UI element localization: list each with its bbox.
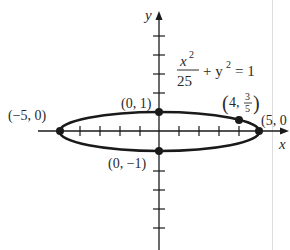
label-top-covertex: (0, 1) — [121, 96, 152, 112]
point-bottom-covertex — [155, 147, 163, 155]
equation-numerator-exponent: 2 — [189, 49, 194, 60]
equation-denominator: 25 — [177, 73, 192, 89]
point-left-vertex — [56, 127, 64, 135]
right-paren: ) — [253, 92, 260, 115]
x-axis-label: x — [278, 136, 286, 152]
x-axis — [38, 126, 289, 136]
label-right-vertex: (5, 0 — [261, 113, 287, 129]
label-point-4-three-fifths: ( 4, 3 5 ) — [222, 91, 260, 115]
label-prefix: 4, — [229, 95, 240, 110]
label-numerator: 3 — [245, 91, 250, 102]
point-4-three-fifths — [235, 116, 243, 124]
point-top-covertex — [155, 108, 163, 116]
ellipse-diagram: y x x 2 25 + y 2 = 1 (−5, 0) (5, 0 (0, 1… — [0, 0, 290, 250]
left-paren: ( — [222, 92, 229, 115]
equation-equals-one: = 1 — [235, 63, 255, 79]
equation-y-term: + y — [203, 63, 223, 79]
y-axis-arrow-icon — [156, 11, 163, 20]
equation-numerator: x — [179, 53, 187, 69]
label-left-vertex: (−5, 0) — [8, 108, 47, 124]
point-right-vertex — [255, 127, 263, 135]
label-bottom-covertex: (0, −1) — [108, 156, 147, 172]
y-axis-label: y — [143, 7, 152, 23]
ellipse-equation: x 2 25 + y 2 = 1 — [177, 49, 255, 89]
equation-y-exponent: 2 — [226, 59, 231, 70]
label-denominator: 5 — [245, 103, 250, 114]
x-axis-arrow-icon — [280, 128, 289, 135]
